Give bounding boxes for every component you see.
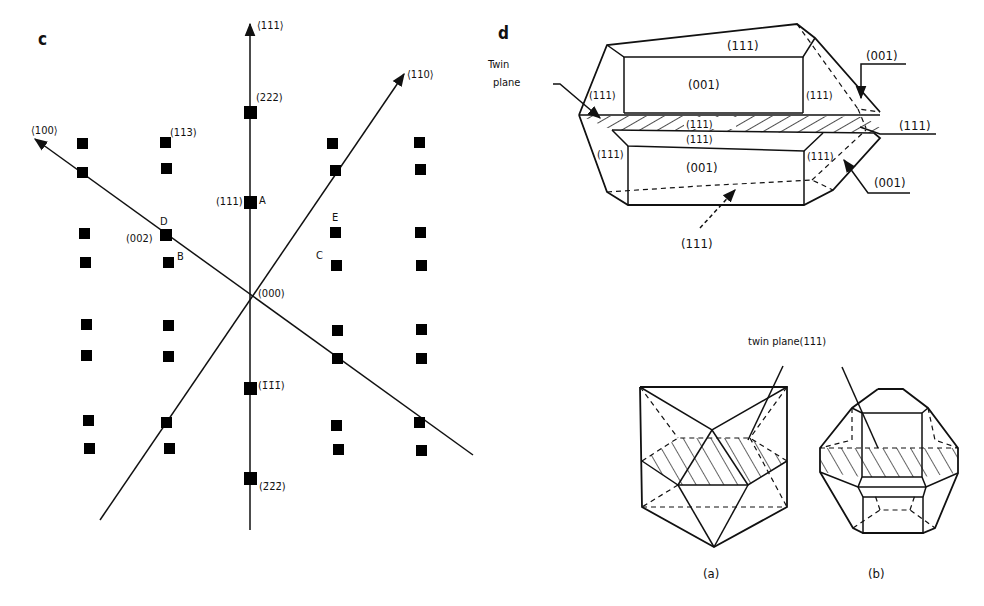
twin-plane-label-line2: plane — [493, 76, 520, 89]
twin-pointer-a — [748, 366, 783, 440]
point-letter-b: B — [177, 250, 184, 263]
twin-pointer-b — [842, 367, 878, 448]
point-letter-d: D — [160, 215, 168, 228]
label-m222: (2̄2̄2̄) — [259, 480, 286, 493]
label-002: (002) — [126, 232, 153, 245]
point-letter-c: C — [316, 249, 323, 262]
point-letter-e: E — [332, 211, 338, 224]
twin-plane-111-label: twin plane(111) — [748, 335, 826, 348]
face-upper-left-111: (111) — [589, 89, 616, 102]
panel-label-c: c — [38, 29, 47, 49]
point-letter-a: A — [259, 194, 266, 207]
callout-111-right: (111) — [899, 118, 930, 133]
crystal-twin-figure: c ⟨111⟩ ⟨110⟩ ⟨100⟩ — [0, 0, 984, 606]
axis-label-100: ⟨100⟩ — [31, 124, 58, 137]
callout-001-top: (001) — [866, 48, 897, 63]
panel-label-d: d — [498, 23, 509, 43]
face-twin-111-a: (111) — [686, 118, 713, 131]
face-upper-001: (001) — [688, 77, 719, 92]
caption-b: (b) — [868, 566, 885, 581]
callout-111-bottom: (111) — [681, 236, 712, 251]
crystal-b — [820, 389, 958, 533]
label-111: (111) — [216, 195, 243, 208]
face-lower-001: (001) — [686, 160, 717, 175]
caption-a: (a) — [703, 566, 719, 581]
face-twin-111-b: (111) — [686, 133, 713, 146]
crystal-a — [640, 387, 787, 547]
axis-110 — [100, 74, 404, 520]
label-222: (222) — [256, 91, 283, 104]
axis-100 — [35, 139, 473, 455]
face-top-111: (111) — [727, 38, 758, 53]
label-m111: (1̄1̄1̄) — [258, 379, 285, 392]
face-lower-right-111: (111) — [807, 150, 834, 163]
panel-c: c ⟨111⟩ ⟨110⟩ ⟨100⟩ — [31, 19, 473, 530]
twin-plane-label-line1: Twin — [487, 58, 509, 71]
face-upper-right-111: (111) — [806, 89, 833, 102]
label-000: (000) — [258, 287, 285, 300]
panel-ab: twin plane(111) (a) — [640, 335, 958, 581]
face-lower-left-111: (111) — [597, 148, 624, 161]
axis-label-110: ⟨110⟩ — [407, 68, 434, 81]
label-113: (113) — [170, 126, 197, 139]
callout-001-bottom: (001) — [874, 175, 905, 190]
panel-d: d (111) (001) (111) (111) (111) (111) (1… — [487, 23, 936, 251]
axis-label-111: ⟨111⟩ — [257, 19, 284, 32]
